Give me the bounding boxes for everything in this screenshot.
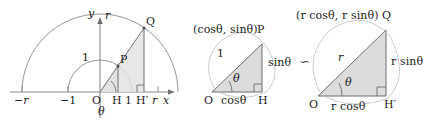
tick-label-one: 1 <box>125 95 132 106</box>
point-label-q-left: Q <box>146 16 155 27</box>
tick-label-neg-r: −r <box>14 95 29 106</box>
foot-label-hprime-left: H′ <box>136 95 148 106</box>
radius-one-label-left: 1 <box>82 52 89 63</box>
axis-y-label: y <box>88 8 94 19</box>
middle-adjacent-label: cosθ <box>221 95 246 106</box>
right-hypotenuse-label: r <box>338 52 343 63</box>
figure-canvas: y r x r −r −1 1 O H H′ P Q 1 θ (cosθ, si… <box>0 0 437 125</box>
right-foot-label: H′ <box>384 99 396 110</box>
middle-vertex-name: P <box>257 24 265 35</box>
middle-hypotenuse-label: 1 <box>217 48 224 59</box>
tick-label-neg-1: −1 <box>60 95 76 106</box>
middle-origin-label: O <box>204 95 213 106</box>
right-opposite-label: r sinθ <box>391 56 423 67</box>
similarity-symbol: ∽ <box>299 55 310 68</box>
right-vertex-coords: (r cosθ, r sinθ) <box>296 10 379 21</box>
right-adjacent-label: r cosθ <box>331 101 365 112</box>
middle-foot-label: H <box>258 95 268 106</box>
point-label-p-left: P <box>120 54 128 65</box>
middle-angle-label: θ <box>233 73 240 84</box>
right-vertex-name: Q <box>382 10 391 21</box>
right-origin-label: O <box>309 99 318 110</box>
angle-label-left: θ <box>98 106 105 117</box>
foot-label-h-left: H <box>112 95 122 106</box>
axis-x-label: x <box>163 95 169 106</box>
middle-opposite-label: sinθ <box>268 57 291 68</box>
middle-vertex-coords: (cosθ, sinθ) <box>193 24 258 35</box>
axis-y-radius-label: r <box>105 10 110 21</box>
axis-x-radius-label: r <box>152 95 157 106</box>
right-angle-label: θ <box>345 77 352 88</box>
